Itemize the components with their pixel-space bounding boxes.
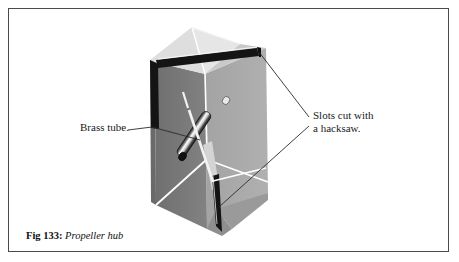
block-body <box>150 48 268 236</box>
figure-container: Brass tube. Slots cut witha hacksaw. Fig… <box>0 0 459 262</box>
label-brass-tube: Brass tube. <box>80 121 129 134</box>
label-slots-line1: Slots cut with <box>313 109 374 121</box>
propeller-hub-illustration <box>0 0 459 262</box>
top-slot-left-run <box>150 60 159 129</box>
figure-caption-number: Fig 133: <box>26 230 62 241</box>
label-slots-line2: a hacksaw. <box>313 122 361 134</box>
figure-caption: Fig 133: Propeller hub <box>26 230 123 241</box>
figure-caption-title: Propeller hub <box>65 230 123 241</box>
leader-line-brass-tube <box>128 127 152 130</box>
label-slots-cut-with-hacksaw: Slots cut witha hacksaw. <box>313 109 374 134</box>
